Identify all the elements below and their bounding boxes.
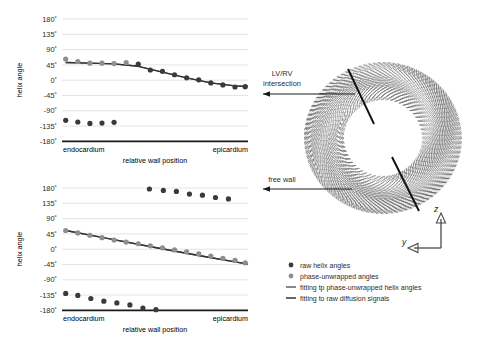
data-point [160,245,165,250]
svg-text:-135˚: -135˚ [40,122,57,131]
data-point [99,120,104,125]
data-point [148,243,153,248]
data-point [114,300,119,305]
legend-label-phase-unwrapped-angles: phase-unwrapped angles [300,273,379,281]
svg-text:0˚: 0˚ [50,76,57,85]
svg-text:-90˚: -90˚ [44,275,57,284]
top-plot-xtick-epicardium: epicardium [213,145,248,154]
svg-text:-90˚: -90˚ [44,106,57,115]
data-point [63,228,68,233]
top-plot-xtick-endocardium: endocardium [63,145,105,154]
svg-text:-180˚: -180˚ [40,137,57,146]
data-point [208,253,213,258]
data-point [161,188,166,193]
data-point [184,249,189,254]
data-point [220,256,225,261]
svg-text:180˚: 180˚ [42,15,57,24]
data-point [136,241,141,246]
svg-text:135˚: 135˚ [42,30,57,39]
z-axis-label: z [433,204,439,214]
svg-text:-180˚: -180˚ [40,306,57,315]
data-point [75,293,80,298]
legend-label-fitting-phase-unwrapped: fitting tp phase-unwrapped helix angles [300,284,422,292]
data-point [208,80,213,85]
data-point [172,247,177,252]
data-point [172,72,177,77]
data-point [111,61,116,66]
svg-text:0˚: 0˚ [50,245,57,254]
legend-dot-raw-helix-angles [289,263,294,268]
data-point [196,251,201,256]
lv-rv-label-line2: intersection [263,79,301,88]
bottom-plot-y-axis-title: helix angle [15,232,24,266]
svg-text:45˚: 45˚ [46,230,57,239]
data-point [226,196,231,201]
data-point [147,186,152,191]
data-point [75,119,80,124]
helix-angle-figure: 180˚ 135˚ 90˚ 45˚ 0˚ -45˚ -90˚ -135˚ -18… [0,0,478,350]
data-point [243,84,248,89]
data-point [232,258,237,263]
svg-text:-135˚: -135˚ [40,291,57,300]
data-point [63,291,68,296]
data-point [87,121,92,126]
svg-text:45˚: 45˚ [46,61,57,70]
data-point [63,57,68,62]
legend-label-fitting-raw-diffusion: fitting to raw diffusion signals [300,295,390,303]
legend-label-raw-helix-angles: raw helix angles [300,262,351,270]
data-point [153,307,158,312]
data-point [127,302,132,307]
ring-shading [304,62,462,214]
data-point [187,192,192,197]
data-point [75,230,80,235]
data-point [196,77,201,82]
data-point [213,195,218,200]
data-point [99,61,104,66]
data-point [160,69,165,74]
data-point [140,305,145,310]
data-point [243,260,248,265]
data-point [99,235,104,240]
data-point [200,193,205,198]
data-point [174,189,179,194]
legend-dot-phase-unwrapped-angles [289,274,294,279]
data-point [184,75,189,80]
svg-text:-45˚: -45˚ [44,91,57,100]
data-point [148,67,153,72]
data-point [87,61,92,66]
bottom-plot-x-axis-title: relative wall position [123,325,187,334]
legend-item-fitting-phase-unwrapped: fitting tp phase-unwrapped helix angles [286,284,422,292]
data-point [75,59,80,64]
data-point [220,82,225,87]
data-point [232,84,237,89]
bottom-plot-xtick-epicardium: epicardium [213,314,248,323]
data-point [111,120,116,125]
data-point [63,118,68,123]
svg-text:180˚: 180˚ [42,184,57,193]
top-plot-x-axis-title: relative wall position [123,156,187,165]
top-plot-y-axis-title: helix angle [15,63,24,97]
y-axis-label: y [401,237,407,247]
data-point [101,299,106,304]
legend-item-fitting-raw-diffusion: fitting to raw diffusion signals [286,295,390,303]
svg-text:90˚: 90˚ [46,45,57,54]
data-point [124,60,129,65]
svg-text:-45˚: -45˚ [44,260,57,269]
data-point [124,239,129,244]
data-point [111,237,116,242]
legend-item-phase-unwrapped-angles: phase-unwrapped angles [289,273,380,281]
data-point [87,233,92,238]
data-point [88,296,93,301]
bottom-plot-xtick-endocardium: endocardium [63,314,105,323]
free-wall-label: free wall [268,175,296,184]
svg-text:90˚: 90˚ [46,214,57,223]
lv-rv-label-line1: LV/RV [272,69,293,78]
data-point [136,62,141,67]
svg-text:135˚: 135˚ [42,199,57,208]
